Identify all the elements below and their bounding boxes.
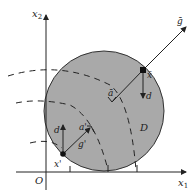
- a-prime-label: a': [79, 122, 87, 132]
- x-bar-label: x̄: [147, 70, 152, 80]
- region-d-label: D: [139, 122, 148, 133]
- g-prime-label: g': [78, 139, 86, 149]
- a-bar-label: ā: [108, 88, 113, 98]
- diagram-canvas: x2 x1 O D ḡ x̄ d ā d a' g' x': [0, 0, 195, 192]
- x2-axis-label: x2: [32, 8, 42, 21]
- origin-label: O: [35, 175, 43, 186]
- d-top-label: d: [146, 91, 152, 101]
- g-bar-vector: [143, 27, 186, 70]
- x-bar-point: [140, 67, 146, 73]
- d-bottom-label: d: [54, 125, 60, 135]
- x-prime-label: x': [54, 159, 62, 169]
- x1-axis-label: x1: [178, 177, 188, 190]
- g-bar-label: ḡ: [177, 16, 183, 26]
- x-prime-point: [60, 151, 66, 157]
